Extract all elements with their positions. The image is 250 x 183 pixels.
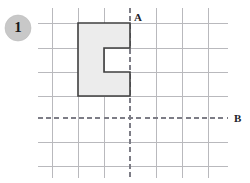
c-shaped-polygon xyxy=(78,23,130,96)
mirror-label-b: B xyxy=(234,112,242,124)
grid-lines xyxy=(38,8,228,178)
problem-number-badge: 1 xyxy=(5,15,31,41)
problem-number-text: 1 xyxy=(14,19,22,35)
reflection-grid-figure: A B 1 xyxy=(0,0,250,183)
mirror-label-a: A xyxy=(134,11,142,23)
worksheet-figure-screenshot: A B 1 xyxy=(0,0,250,183)
